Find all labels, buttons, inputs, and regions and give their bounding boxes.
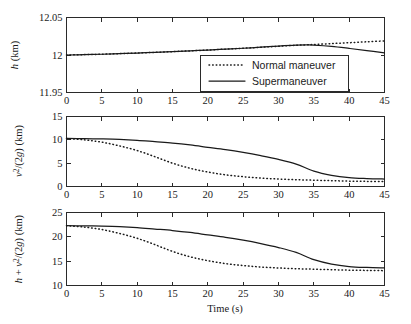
- legend-label-supermaneuver: Supermaneuver: [252, 75, 327, 87]
- x-tick-label: 20: [203, 95, 214, 106]
- y-tick-labels-middle: 051015: [52, 111, 63, 192]
- y-tick-label: 12: [52, 50, 63, 61]
- x-tick-label: 30: [273, 189, 284, 200]
- x-tick-labels-middle: 051015202530354045: [64, 189, 390, 200]
- x-tick-labels-top: 051015202530354045: [64, 95, 390, 106]
- y-tick-label: 11.95: [39, 87, 62, 98]
- x-tick-label: 35: [309, 288, 320, 299]
- x-tick-label: 5: [99, 288, 104, 299]
- curve-supermaneuver-top: [67, 45, 385, 55]
- y-tick-label: 15: [52, 256, 63, 267]
- y-tick-label: 5: [57, 158, 62, 169]
- x-tick-label: 0: [64, 189, 69, 200]
- x-tick-label: 25: [238, 95, 249, 106]
- x-tick-label: 35: [309, 189, 320, 200]
- curve-supermaneuver-bottom: [67, 226, 385, 268]
- x-tick-label: 25: [238, 189, 249, 200]
- y-tick-label: 20: [52, 231, 63, 242]
- curve-normal-maneuver-middle: [67, 138, 385, 181]
- panel-bottom: 051015202530354045 10152025 h + v2/(2g) …: [12, 207, 390, 315]
- x-tick-label: 30: [273, 288, 284, 299]
- y-tick-label: 10: [52, 134, 63, 145]
- y-tick-label: 10: [52, 280, 63, 291]
- x-tick-label: 45: [379, 288, 390, 299]
- y-tick-label: 15: [52, 111, 63, 122]
- curve-normal-maneuver-top: [67, 41, 385, 55]
- svg-text:v2/(2g) (km): v2/(2g) (km): [12, 125, 25, 177]
- x-tick-label: 40: [344, 189, 355, 200]
- axes-frame-bottom: [67, 213, 385, 286]
- x-tick-label: 45: [379, 95, 390, 106]
- y-axis-label-top: h (km): [9, 40, 21, 69]
- y-axis-label-bottom: h + v2/(2g) (km): [12, 214, 25, 283]
- x-tick-label: 5: [99, 95, 104, 106]
- multi-panel-line-chart: 051015202530354045 11.951212.05 h (km) N…: [0, 0, 411, 324]
- y-ticks-bottom: [67, 213, 385, 286]
- x-tick-label: 40: [344, 95, 355, 106]
- y-tick-label: 25: [52, 207, 63, 218]
- legend: Normal maneuver Supermaneuver: [201, 56, 349, 92]
- x-tick-label: 10: [132, 189, 143, 200]
- panel-middle: 051015202530354045 051015 v2/(2g) (km): [12, 111, 390, 199]
- svg-text:h + v2/(2g) (km): h + v2/(2g) (km): [12, 214, 25, 283]
- x-tick-label: 10: [132, 288, 143, 299]
- x-tick-label: 0: [64, 288, 69, 299]
- x-axis-label: Time (s): [207, 303, 243, 315]
- x-tick-label: 25: [238, 288, 249, 299]
- x-tick-label: 45: [379, 189, 390, 200]
- y-tick-labels-bottom: 10152025: [52, 207, 63, 291]
- x-tick-label: 0: [64, 95, 69, 106]
- legend-label-normal-maneuver: Normal maneuver: [252, 59, 336, 71]
- x-tick-label: 20: [203, 189, 214, 200]
- x-tick-label: 5: [99, 189, 104, 200]
- x-tick-label: 40: [344, 288, 355, 299]
- y-tick-label: 12.05: [39, 12, 63, 23]
- figure-panel-stack: 051015202530354045 11.951212.05 h (km) N…: [0, 0, 411, 324]
- x-tick-labels-bottom: 051015202530354045: [64, 288, 390, 299]
- x-tick-label: 15: [167, 95, 178, 106]
- x-tick-label: 20: [203, 288, 214, 299]
- curve-normal-maneuver-bottom: [67, 226, 385, 271]
- y-tick-labels-top: 11.951212.05: [39, 12, 63, 98]
- y-axis-label-middle: v2/(2g) (km): [12, 125, 25, 177]
- x-tick-label: 35: [309, 95, 320, 106]
- x-tick-label: 30: [273, 95, 284, 106]
- y-tick-label: 0: [57, 181, 62, 192]
- x-tick-label: 15: [167, 288, 178, 299]
- x-tick-label: 10: [132, 95, 143, 106]
- x-tick-label: 15: [167, 189, 178, 200]
- curve-supermaneuver-middle: [67, 138, 385, 179]
- x-ticks-bottom: [67, 213, 385, 286]
